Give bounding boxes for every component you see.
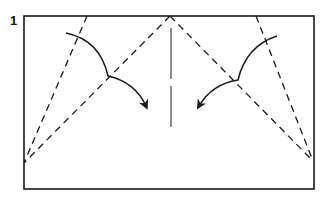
valley-fold-left-inner xyxy=(24,16,170,163)
valley-fold-left-outer xyxy=(24,16,87,163)
paper-outline xyxy=(24,16,314,189)
right-fold-arrow-icon xyxy=(199,36,277,106)
left-fold-arrow-icon xyxy=(66,33,146,106)
valley-fold-right-outer xyxy=(256,16,313,161)
valley-fold-right-inner xyxy=(170,16,313,161)
fold-diagram-canvas xyxy=(0,0,330,198)
